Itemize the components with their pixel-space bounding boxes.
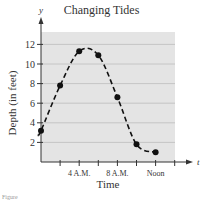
x-axis-arrow-icon: [186, 160, 193, 165]
y-tick-label: 6: [30, 98, 35, 109]
data-point: [57, 83, 63, 89]
x-tick-label: 8 A.M.: [106, 169, 128, 178]
y-axis-label: Depth (in feet): [6, 63, 18, 143]
data-point: [38, 128, 44, 134]
tide-chart: yt 246810124 A.M.8 A.M.Noon: [0, 0, 203, 201]
x-axis-label: Time: [41, 178, 175, 190]
x-tick-label: Noon: [147, 169, 165, 178]
x-tick-label: 4 A.M.: [68, 169, 90, 178]
data-point: [134, 141, 140, 147]
y-tick-label: 12: [25, 39, 35, 50]
y-tick-label: 2: [30, 137, 35, 148]
figure-caption: Figure: [2, 194, 18, 200]
data-point: [95, 52, 101, 58]
y-tick-label: 4: [30, 117, 35, 128]
y-axis-symbol: y: [38, 5, 43, 15]
data-point: [153, 149, 159, 155]
data-point: [114, 94, 120, 100]
x-axis-symbol: t: [197, 157, 200, 167]
data-point: [76, 48, 82, 54]
y-tick-label: 8: [30, 78, 35, 89]
y-tick-label: 10: [25, 59, 35, 70]
y-axis-arrow-icon: [39, 17, 44, 24]
